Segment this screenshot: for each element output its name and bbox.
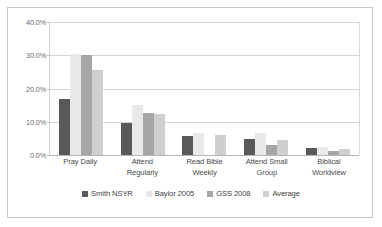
x-axis-category-label: BiblicalWorldview [298, 157, 360, 178]
bar[interactable] [154, 114, 165, 155]
bar-slot [255, 22, 266, 155]
bar[interactable] [277, 140, 288, 155]
x-axis-label-line: Attend [111, 157, 173, 168]
y-axis-tick-label: 10.0% [26, 117, 46, 126]
legend-label: GSS 2008 [216, 189, 250, 198]
bar-slot [215, 22, 226, 155]
bar-group [174, 22, 236, 155]
chart-legend: Smith NSYRBaylor 2005GSS 2008Average [8, 189, 374, 198]
x-axis-category-label: Pray Daily [49, 157, 111, 178]
x-axis-category-label: Read BibleWeekly [173, 157, 235, 178]
bar-group [297, 22, 359, 155]
y-axis-tick-label: 40.0% [26, 18, 46, 27]
bar[interactable] [81, 55, 92, 155]
bar-group [235, 22, 297, 155]
bar[interactable] [182, 136, 193, 155]
bar-slot [306, 22, 317, 155]
bar-chart-figure: 0.0%10.0%20.0%30.0%40.0% Pray DailyAtten… [7, 7, 373, 218]
bar-slot [121, 22, 132, 155]
bar[interactable] [215, 135, 226, 155]
bar[interactable] [266, 145, 277, 155]
bar-slot [143, 22, 154, 155]
bar-slot [154, 22, 165, 155]
bar[interactable] [121, 123, 132, 155]
x-axis-category-label: AttendRegularly [111, 157, 173, 178]
bar[interactable] [255, 133, 266, 155]
legend-entry[interactable]: GSS 2008 [207, 189, 250, 198]
bar-slot [244, 22, 255, 155]
bar-slot [59, 22, 70, 155]
legend-swatch-icon [263, 191, 269, 197]
bar[interactable] [70, 54, 81, 155]
bar-slot [339, 22, 350, 155]
bar[interactable] [59, 99, 70, 155]
legend-label: Average [272, 189, 299, 198]
bar[interactable] [339, 149, 350, 155]
y-axis-tick-label: 0.0% [30, 151, 46, 160]
x-axis-label-line: Read Bible [173, 157, 235, 168]
bar[interactable] [306, 148, 317, 155]
x-axis-label-line: Pray Daily [49, 157, 111, 168]
bar-slot [317, 22, 328, 155]
bar-slot [70, 22, 81, 155]
bar-slot [182, 22, 193, 155]
x-axis-label-line: Attend Small [236, 157, 298, 168]
legend-entry[interactable]: Smith NSYR [82, 189, 133, 198]
bar[interactable] [132, 105, 143, 155]
x-axis-label-line: Worldview [298, 168, 360, 179]
bar-slot [277, 22, 288, 155]
bar-slot [193, 22, 204, 155]
bar-slot [328, 22, 339, 155]
bar-slot [266, 22, 277, 155]
legend-label: Smith NSYR [91, 189, 133, 198]
legend-swatch-icon [207, 191, 213, 197]
legend-swatch-icon [82, 191, 88, 197]
bar-slot [92, 22, 103, 155]
y-axis-tick-mark [47, 155, 50, 156]
plot-area: 0.0%10.0%20.0%30.0%40.0% [49, 22, 360, 155]
bar[interactable] [244, 139, 255, 155]
bar[interactable] [328, 151, 339, 155]
x-axis-category-label: Attend SmallGroup [236, 157, 298, 178]
x-axis-category-labels: Pray DailyAttendRegularlyRead BibleWeekl… [49, 157, 360, 178]
bar-slot [132, 22, 143, 155]
x-axis-label-line: Biblical [298, 157, 360, 168]
legend-entry[interactable]: Baylor 2005 [146, 189, 194, 198]
legend-label: Baylor 2005 [155, 189, 194, 198]
legend-entry[interactable]: Average [263, 189, 299, 198]
bars-layer [50, 22, 359, 155]
x-axis-label-line: Group [236, 168, 298, 179]
y-axis-tick-label: 20.0% [26, 84, 46, 93]
bar-slot [204, 22, 215, 155]
legend-swatch-icon [146, 191, 152, 197]
x-axis-label-line: Regularly [111, 168, 173, 179]
bar-slot [81, 22, 92, 155]
x-axis-label-line: Weekly [173, 168, 235, 179]
bar[interactable] [193, 133, 204, 155]
y-axis-tick-label: 30.0% [26, 51, 46, 60]
bar[interactable] [92, 70, 103, 155]
bar[interactable] [317, 147, 328, 155]
bar-group [112, 22, 174, 155]
gridline [50, 155, 359, 156]
bar[interactable] [143, 113, 154, 155]
bar-group [50, 22, 112, 155]
